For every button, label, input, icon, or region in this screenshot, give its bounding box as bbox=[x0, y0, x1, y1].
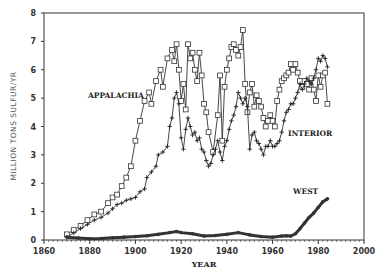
plus-marker bbox=[225, 138, 229, 142]
dot-marker bbox=[307, 216, 311, 220]
square-marker bbox=[165, 56, 170, 61]
dot-marker bbox=[179, 231, 183, 235]
square-marker bbox=[124, 175, 129, 180]
plus-marker bbox=[296, 90, 300, 94]
dot-marker bbox=[145, 234, 149, 238]
plus-marker bbox=[234, 104, 238, 108]
square-marker bbox=[179, 99, 184, 104]
plus-marker bbox=[170, 116, 174, 120]
square-marker bbox=[256, 99, 261, 104]
square-marker bbox=[92, 212, 97, 217]
plus-marker bbox=[218, 150, 222, 154]
square-marker bbox=[188, 56, 193, 61]
square-marker bbox=[252, 104, 257, 109]
square-marker bbox=[204, 110, 209, 115]
y-tick-label: 1 bbox=[30, 208, 36, 217]
plus-marker bbox=[314, 68, 318, 72]
plus-marker bbox=[261, 153, 265, 157]
x-axis-title: YEAR bbox=[191, 259, 217, 269]
dot-marker bbox=[303, 221, 307, 225]
plus-marker bbox=[120, 201, 124, 205]
square-marker bbox=[149, 101, 154, 106]
square-marker bbox=[160, 84, 165, 89]
plus-marker bbox=[168, 124, 172, 128]
dot-marker bbox=[99, 237, 103, 241]
square-marker bbox=[231, 42, 236, 47]
square-marker bbox=[170, 47, 175, 52]
y-tick-label: 7 bbox=[30, 37, 36, 46]
square-marker bbox=[268, 113, 273, 118]
square-marker bbox=[261, 116, 266, 121]
plus-marker bbox=[227, 127, 231, 131]
square-marker bbox=[154, 79, 159, 84]
plus-marker bbox=[245, 104, 249, 108]
y-axis: 012345678 bbox=[30, 9, 44, 245]
x-tick-label: 1960 bbox=[261, 247, 284, 256]
plus-marker bbox=[325, 65, 329, 69]
square-marker bbox=[270, 118, 275, 123]
square-marker bbox=[119, 184, 124, 189]
square-marker bbox=[259, 104, 264, 109]
square-marker bbox=[199, 73, 204, 78]
plus-marker bbox=[216, 138, 220, 142]
square-marker bbox=[138, 118, 143, 123]
plus-marker bbox=[99, 215, 103, 219]
square-marker bbox=[254, 93, 259, 98]
plus-marker bbox=[172, 96, 176, 100]
plus-marker bbox=[266, 144, 270, 148]
dot-marker bbox=[214, 234, 218, 238]
y-tick-label: 8 bbox=[30, 9, 36, 18]
dot-marker bbox=[65, 235, 69, 239]
square-marker bbox=[240, 28, 245, 33]
square-marker bbox=[318, 84, 323, 89]
square-marker bbox=[295, 70, 300, 75]
dot-marker bbox=[326, 197, 330, 201]
square-marker bbox=[263, 124, 268, 129]
square-marker bbox=[133, 138, 138, 143]
sulfur-emissions-chart: 012345678 186018801900192019401960198020… bbox=[0, 0, 385, 279]
plus-marker bbox=[229, 119, 233, 123]
square-marker bbox=[250, 82, 255, 87]
plus-marker bbox=[248, 147, 252, 151]
y-tick-label: 3 bbox=[30, 151, 36, 160]
square-marker bbox=[325, 101, 330, 106]
square-marker bbox=[176, 67, 181, 72]
square-marker bbox=[174, 42, 179, 47]
series-label-appalachia: APPALACHIA bbox=[87, 91, 144, 100]
square-marker bbox=[227, 56, 232, 61]
square-marker bbox=[195, 79, 200, 84]
x-tick-label: 1940 bbox=[216, 247, 239, 256]
plus-marker bbox=[92, 218, 96, 222]
plus-marker bbox=[268, 138, 272, 142]
square-marker bbox=[202, 101, 207, 106]
square-marker bbox=[236, 53, 241, 58]
square-marker bbox=[291, 67, 296, 72]
series-label-interior: INTERIOR bbox=[288, 129, 333, 138]
square-marker bbox=[197, 50, 202, 55]
dot-marker bbox=[225, 233, 229, 237]
series-label-west: WEST bbox=[292, 187, 319, 196]
y-tick-label: 6 bbox=[30, 66, 36, 75]
plus-marker bbox=[124, 198, 128, 202]
y-tick-label: 2 bbox=[30, 179, 36, 188]
y-tick-label: 5 bbox=[30, 94, 36, 103]
x-tick-label: 1860 bbox=[33, 247, 56, 256]
plus-marker bbox=[293, 96, 297, 100]
square-marker bbox=[243, 82, 248, 87]
square-marker bbox=[158, 67, 163, 72]
dot-marker bbox=[168, 231, 172, 235]
square-marker bbox=[224, 67, 229, 72]
plus-marker bbox=[142, 187, 146, 191]
square-marker bbox=[183, 107, 188, 112]
dot-marker bbox=[236, 231, 240, 235]
dot-marker bbox=[294, 232, 298, 236]
square-marker bbox=[272, 124, 277, 129]
square-marker bbox=[316, 73, 321, 78]
x-axis: 18601880190019201940196019802000 bbox=[33, 240, 376, 256]
dot-marker bbox=[122, 235, 126, 239]
square-marker bbox=[323, 70, 328, 75]
square-marker bbox=[286, 70, 291, 75]
plus-marker bbox=[259, 147, 263, 151]
square-marker bbox=[99, 209, 104, 214]
plus-marker bbox=[186, 116, 190, 120]
